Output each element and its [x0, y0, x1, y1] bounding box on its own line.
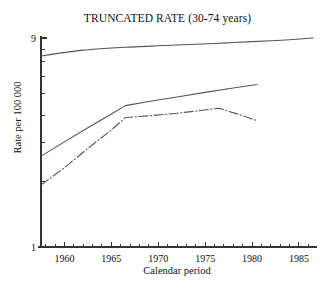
x-tick-label: 1965 — [101, 253, 121, 264]
x-tick-label: 1975 — [195, 253, 215, 264]
chart-figure: TRUNCATED RATE (30-74 years) 19601965197… — [0, 0, 335, 290]
y-axis-label: Rate per 100 000 — [12, 63, 23, 173]
y-tick-label: 1 — [31, 242, 36, 253]
x-tick-label: 1960 — [54, 253, 74, 264]
x-tick-label: 1980 — [242, 253, 262, 264]
axis-ticks — [41, 38, 308, 247]
plot-area: 19601965197019751980198519 — [0, 0, 335, 290]
y-tick-label: 9 — [31, 33, 36, 44]
x-axis-label: Calendar period — [41, 265, 313, 276]
axes — [38, 36, 317, 247]
x-tick-label: 1970 — [148, 253, 168, 264]
x-tick-label: 1985 — [289, 253, 309, 264]
series-middle-curve — [41, 84, 257, 156]
data-series — [41, 38, 313, 185]
series-lower-curve — [41, 108, 257, 185]
series-upper-curve — [41, 38, 313, 56]
axis-tick-labels: 19601965197019751980198519 — [31, 33, 309, 264]
